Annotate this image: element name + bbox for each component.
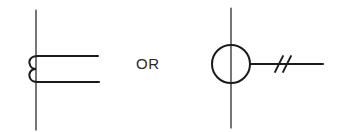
symbols-drawing (0, 0, 346, 132)
circle-double-slash-lead-icon (212, 8, 323, 128)
or-label: OR (136, 55, 160, 73)
diagram-canvas: OR (0, 0, 346, 132)
coil-tap-icon (29, 10, 99, 130)
